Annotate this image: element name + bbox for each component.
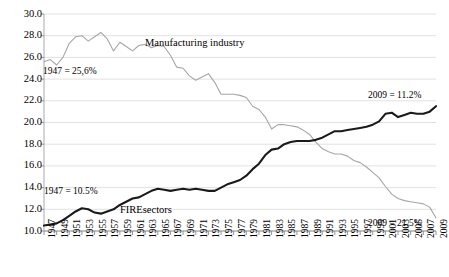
x-tick-label: 1977 bbox=[238, 219, 248, 238]
x-tick-label: 1987 bbox=[301, 219, 311, 238]
x-tick-label: 1973 bbox=[212, 219, 222, 238]
x-tick-label: 1991 bbox=[326, 219, 336, 238]
x-tick-label: 1983 bbox=[276, 219, 286, 238]
x-tick-label: 1995 bbox=[351, 219, 361, 238]
x-tick-label: 1985 bbox=[288, 219, 298, 238]
x-tick-label: 2007 bbox=[427, 219, 437, 238]
x-tick-label: 1967 bbox=[174, 219, 184, 238]
x-tick-label: 1949 bbox=[61, 219, 71, 238]
chart-container: 10.012.014.016.018.020.022.024.026.028.0… bbox=[0, 0, 449, 277]
x-tick-label: 1959 bbox=[124, 219, 134, 238]
x-tick-label: 1963 bbox=[149, 219, 159, 238]
x-tick-label: 2009 bbox=[440, 219, 449, 238]
x-tick-label: 1975 bbox=[225, 219, 235, 238]
x-tick-label: 1979 bbox=[250, 219, 260, 238]
x-tick-label: 1971 bbox=[200, 219, 210, 238]
x-tick-label: 1957 bbox=[111, 219, 121, 238]
annotation-fire-end-value: 2009 = 21,5% bbox=[368, 218, 422, 228]
x-tick-label: 1993 bbox=[339, 219, 349, 238]
annotation-fire-start-value: 1947 = 10.5% bbox=[44, 186, 98, 196]
series-label-fire-sectors: FIREsectors bbox=[120, 204, 172, 215]
annotation-manufacturing-start-value: 1947 = 25,6% bbox=[43, 66, 97, 76]
x-tick-label: 1947 bbox=[48, 219, 58, 238]
x-tick-label: 1969 bbox=[187, 219, 197, 238]
series-label-manufacturing: Manufacturing industry bbox=[145, 37, 244, 48]
x-tick-label: 1961 bbox=[137, 219, 147, 238]
x-tick-label: 1989 bbox=[314, 219, 324, 238]
x-tick-label: 1951 bbox=[73, 219, 83, 238]
x-tick-label: 1965 bbox=[162, 219, 172, 238]
x-tick-label: 1955 bbox=[99, 219, 109, 238]
x-tick-label: 1981 bbox=[263, 219, 273, 238]
x-tick-label: 1953 bbox=[86, 219, 96, 238]
annotation-manufacturing-end-value: 2009 = 11.2% bbox=[368, 90, 421, 100]
